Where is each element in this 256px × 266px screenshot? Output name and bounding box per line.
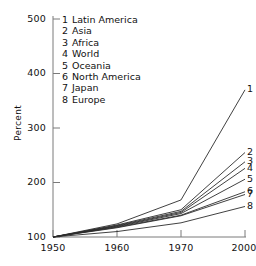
legend-label-3: Africa	[72, 37, 99, 48]
series-end-label-1: 1	[247, 83, 256, 94]
legend-label-5: Oceania	[72, 60, 111, 71]
legend-label-7: Japan	[72, 82, 99, 93]
x-tick-label-1970: 1970	[164, 242, 198, 253]
legend-item-north-america: 6North America	[62, 71, 141, 82]
series-end-label-8: 8	[247, 200, 256, 211]
y-axis-title: Percent	[13, 93, 23, 153]
legend-label-6: North America	[72, 71, 141, 82]
series-line-3	[53, 162, 245, 237]
series-end-label-4: 4	[247, 162, 256, 173]
series-lines	[53, 90, 245, 237]
y-tick-label-500: 500	[20, 13, 46, 24]
series-end-label-7: 7	[247, 188, 256, 199]
legend: 1Latin America 2Asia 3Africa 4World 5Oce…	[62, 14, 141, 105]
legend-item-europe: 8Europe	[62, 94, 141, 105]
x-tick-label-2000: 2000	[227, 242, 256, 253]
legend-label-1: Latin America	[72, 14, 138, 25]
legend-item-africa: 3Africa	[62, 37, 141, 48]
legend-key-6: 6	[62, 71, 72, 82]
legend-label-2: Asia	[72, 25, 92, 36]
legend-key-3: 3	[62, 37, 72, 48]
legend-item-japan: 7Japan	[62, 82, 141, 93]
legend-label-4: World	[72, 48, 99, 59]
x-tick-label-1960: 1960	[100, 242, 134, 253]
legend-item-asia: 2Asia	[62, 25, 141, 36]
legend-label-8: Europe	[72, 94, 105, 105]
line-chart-figure: 500 400 300 200 100 1950 1960 1970 2000 …	[0, 0, 256, 266]
legend-key-2: 2	[62, 25, 72, 36]
series-line-7	[53, 194, 245, 237]
series-line-6	[53, 192, 245, 237]
legend-item-oceania: 5Oceania	[62, 60, 141, 71]
legend-key-7: 7	[62, 82, 72, 93]
y-tick-label-100: 100	[20, 231, 46, 242]
y-tick-label-400: 400	[20, 67, 46, 78]
legend-item-world: 4World	[62, 48, 141, 59]
legend-key-5: 5	[62, 60, 72, 71]
x-tick-label-1950: 1950	[36, 242, 70, 253]
legend-item-latin-america: 1Latin America	[62, 14, 141, 25]
y-tick-label-200: 200	[20, 176, 46, 187]
y-tick-marks	[53, 19, 60, 237]
legend-key-4: 4	[62, 48, 72, 59]
y-tick-label-300: 300	[20, 122, 46, 133]
legend-key-8: 8	[62, 94, 72, 105]
series-end-label-5: 5	[247, 173, 256, 184]
series-line-1	[53, 90, 245, 237]
legend-key-1: 1	[62, 14, 72, 25]
